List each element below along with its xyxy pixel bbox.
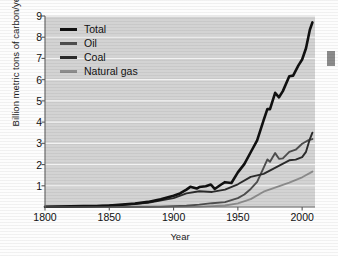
y-tick-label: 1 <box>28 181 42 191</box>
y-tick-label: 8 <box>28 32 42 42</box>
x-tick-label: 1900 <box>154 211 194 223</box>
x-tick-label: 1800 <box>25 211 65 223</box>
y-tick-label: 4 <box>28 117 42 127</box>
legend-item-total: Total <box>60 22 180 36</box>
legend-swatch <box>60 42 77 45</box>
y-tick-label: 7 <box>28 53 42 63</box>
x-tick-label: 1850 <box>89 211 129 223</box>
y-tick-label: 6 <box>28 75 42 85</box>
y-tick-label: 5 <box>28 96 42 106</box>
legend-label: Natural gas <box>84 66 138 77</box>
x-axis-title: Year <box>45 231 315 242</box>
legend-item-natural-gas: Natural gas <box>60 64 180 78</box>
y-tick-label: 2 <box>28 160 42 170</box>
legend-label: Coal <box>84 52 106 63</box>
x-tick-label: 1950 <box>218 211 258 223</box>
figure-container: 123456789 18001850190019502000 Billion m… <box>0 0 338 256</box>
edge-artifact-mark <box>327 51 335 66</box>
legend-swatch <box>60 28 77 31</box>
legend-swatch <box>60 56 77 59</box>
y-axis-title: Billion metric tons of carbon/year <box>10 0 21 153</box>
chart-legend: TotalOilCoalNatural gas <box>60 22 180 78</box>
legend-item-oil: Oil <box>60 36 180 50</box>
legend-label: Total <box>84 24 106 35</box>
y-tick-label: 3 <box>28 138 42 148</box>
legend-label: Oil <box>84 38 97 49</box>
x-tick-label: 2000 <box>282 211 322 223</box>
legend-swatch <box>60 70 77 73</box>
y-tick-label: 9 <box>28 11 42 21</box>
legend-item-coal: Coal <box>60 50 180 64</box>
